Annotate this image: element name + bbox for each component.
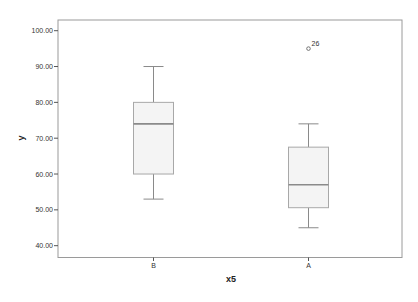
y-tick-label: 100.00 (32, 27, 54, 34)
x-tick-label: A (306, 262, 311, 269)
y-tick-label: 70.00 (35, 135, 53, 142)
y-tick-label: 60.00 (35, 171, 53, 178)
y-axis-title: y (16, 135, 26, 140)
y-tick-label: 80.00 (35, 99, 53, 106)
x-tick-label: B (151, 262, 156, 269)
y-tick-label: 90.00 (35, 63, 53, 70)
y-tick-label: 50.00 (35, 206, 53, 213)
outlier-label: 26 (312, 40, 320, 47)
x-axis: BA (151, 258, 311, 270)
plot-frame (58, 20, 402, 258)
y-tick-label: 40.00 (35, 242, 53, 249)
iqr-box (289, 147, 329, 208)
x-axis-title: x5 (226, 274, 236, 284)
boxplot-chart: 100.0090.0080.0070.0060.0050.0040.00 BA … (0, 0, 418, 302)
iqr-box (134, 102, 174, 174)
y-axis: 100.0090.0080.0070.0060.0050.0040.00 (32, 27, 58, 249)
